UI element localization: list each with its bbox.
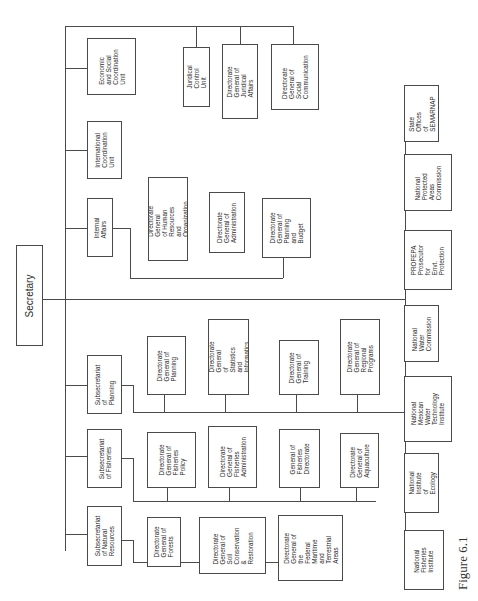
connector-line bbox=[65, 68, 87, 69]
connector-line bbox=[196, 26, 197, 47]
connector-line bbox=[133, 458, 134, 501]
dg-soil-conservation-box: Directorate General of Soil Conservation… bbox=[199, 517, 266, 574]
box-label: Directorate General of Statistics and In… bbox=[208, 342, 249, 373]
box-label: Economic and Social Coordination Unit bbox=[97, 49, 125, 85]
box-label: Directorate General of Soil Conservation… bbox=[211, 527, 253, 564]
juridical-control-unit-box: Juridical Control Unit bbox=[183, 47, 210, 107]
dg-fisheries-administration-box: Directorate General of Fisheries Adminis… bbox=[208, 426, 257, 488]
connector-line bbox=[65, 26, 294, 27]
box-label: National Protected Areas Commission bbox=[414, 165, 442, 200]
dg-human-resources-box: Directorate General of Human Resources a… bbox=[148, 177, 188, 261]
connector-line bbox=[65, 150, 87, 151]
box-label: Directorate General of Regional Programs bbox=[346, 342, 374, 373]
box-label: National Institute of Ecology bbox=[407, 471, 435, 494]
general-fisheries-directorate-box: General of Fisheries Directorate bbox=[279, 429, 320, 488]
box-label: PROFEPA Prosecutor for Envt. Protection bbox=[410, 245, 445, 275]
dg-regional-programs-box: Directorate General of Regional Programs bbox=[340, 319, 380, 395]
subsecretariat-natural-resources-box: Subsecretariat of Natural Resources bbox=[87, 506, 122, 566]
connector-line bbox=[43, 299, 65, 300]
connector-line bbox=[283, 258, 284, 278]
box-label: International Coordination Unit bbox=[94, 132, 115, 168]
connector-line bbox=[133, 540, 134, 562]
dg-social-communication-box: Directorate General of Social Communicat… bbox=[271, 44, 319, 110]
connector-line bbox=[225, 395, 226, 412]
international-coordination-unit-box: International Coordination Unit bbox=[87, 121, 122, 179]
connector-line bbox=[113, 228, 130, 229]
box-label: Internal Affairs bbox=[93, 217, 107, 238]
connector-line bbox=[65, 26, 66, 551]
connector-line bbox=[164, 395, 165, 412]
box-label: Subsecretariat of Fisheries bbox=[97, 438, 111, 479]
box-label: Directorate General of Forests bbox=[153, 527, 174, 558]
box-label: Subsecretariat of Natural Resources bbox=[94, 516, 115, 557]
connector-line bbox=[293, 26, 294, 44]
dg-fisheries-policy-box: Directorate General of Fisheries Policy bbox=[147, 432, 196, 488]
subsecretariat-fisheries-box: Subsecretariat of Fisheries bbox=[87, 429, 122, 488]
connector-line bbox=[65, 534, 87, 535]
national-institute-ecology-box: National Institute of Ecology bbox=[404, 453, 439, 513]
dg-training-box: Directorate General of Training bbox=[279, 340, 319, 395]
box-label: Directorate General of Fisheries Policy bbox=[157, 445, 185, 476]
connector-line bbox=[65, 228, 87, 229]
national-mexican-water-technology-institute-box: National Mexican Water Technology Instit… bbox=[404, 376, 452, 442]
subsecretariat-planning-box: Subsecretariat of Planning bbox=[87, 355, 122, 414]
dg-juridical-affairs-box: Directorate General of Juridical Affairs bbox=[222, 44, 258, 119]
connector-line bbox=[65, 385, 87, 386]
box-label: National Mexican Water Technology Instit… bbox=[410, 393, 445, 425]
dg-planning-budget-box: Directorate General of Planning and Budg… bbox=[262, 198, 311, 258]
box-label: Directorate General of Training bbox=[288, 352, 309, 383]
box-label: Directorate General of the Federal Marit… bbox=[282, 532, 338, 564]
dg-administration-box: Directorate General of Administration bbox=[209, 192, 245, 253]
dg-statistics-informatics-box: Directorate General of Statistics and In… bbox=[208, 319, 249, 395]
dg-forests-box: Directorate General of Forests bbox=[147, 517, 181, 567]
connector-line bbox=[356, 488, 357, 501]
internal-affairs-box: Internal Affairs bbox=[87, 198, 113, 257]
dg-planning-box: Directorate General of Planning bbox=[147, 336, 186, 395]
connector-line bbox=[122, 385, 133, 386]
profepa-box: PROFEPA Prosecutor for Envt. Protection bbox=[404, 230, 452, 290]
connector-line bbox=[357, 395, 358, 412]
connector-line bbox=[133, 412, 410, 413]
box-label: Directorate General of Administration bbox=[216, 203, 237, 243]
connector-line bbox=[300, 488, 301, 501]
dg-federal-maritime-terrestrial-box: Directorate General of the Federal Marit… bbox=[278, 515, 343, 581]
connector-line bbox=[130, 228, 131, 278]
box-label: Juridical Control Unit bbox=[186, 65, 207, 88]
connector-line bbox=[65, 299, 405, 300]
dg-aquaculture-box: Directorate General of Aquaculture bbox=[340, 433, 379, 488]
secretary-label: Secretary bbox=[24, 274, 35, 317]
box-label: State Offices of SEMARNAP bbox=[407, 96, 435, 131]
box-label: National Water Commission bbox=[411, 316, 432, 351]
econ-social-coordination-unit-box: Economic and Social Coordination Unit bbox=[87, 38, 136, 95]
national-fisheries-institute-box: National Fisheries Institute bbox=[404, 530, 444, 590]
box-label: National Fisheries Institute bbox=[413, 547, 434, 573]
figure-caption: Figure 6.1 bbox=[455, 537, 471, 590]
secretary-box: Secretary bbox=[16, 245, 43, 346]
connector-line bbox=[229, 488, 230, 501]
national-protected-areas-commission-box: National Protected Areas Commission bbox=[404, 154, 452, 211]
connector-line bbox=[122, 458, 133, 459]
box-label: Directorate General of Juridical Affairs bbox=[226, 66, 254, 97]
box-label: Directorate General of Social Communicat… bbox=[281, 55, 309, 99]
connector-line bbox=[65, 456, 87, 457]
connector-line bbox=[122, 540, 133, 541]
box-label: Directorate General of Fisheries Adminis… bbox=[218, 437, 246, 477]
connector-line bbox=[133, 385, 134, 412]
box-label: Directorate General of Human Resources a… bbox=[148, 201, 188, 237]
connector-line bbox=[167, 488, 168, 501]
box-label: Directorate General of Planning and Budg… bbox=[269, 213, 304, 244]
connector-line bbox=[296, 395, 297, 412]
national-water-commission-box: National Water Commission bbox=[404, 305, 439, 362]
box-label: Directorate General of Aquaculture bbox=[349, 444, 370, 478]
connector-line bbox=[240, 26, 241, 44]
box-label: Subsecretariat of Planning bbox=[94, 364, 115, 405]
connector-line bbox=[133, 501, 376, 502]
box-label: Directorate General of Planning bbox=[156, 350, 177, 381]
state-offices-semarnap-box: State Offices of SEMARNAP bbox=[404, 85, 439, 142]
box-label: General of Fisheries Directorate bbox=[289, 443, 310, 474]
connector-line bbox=[130, 278, 283, 279]
